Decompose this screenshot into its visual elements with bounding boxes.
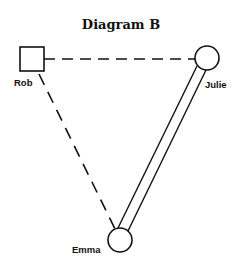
node-julie-label: Julie xyxy=(205,79,227,90)
node-emma-circle xyxy=(108,228,132,252)
node-julie-circle xyxy=(195,46,219,70)
edge-julie-emma-line-1 xyxy=(118,66,197,228)
node-rob-square xyxy=(20,47,44,71)
node-emma-label: Emma xyxy=(72,244,101,255)
diagram-title: Diagram B xyxy=(82,17,160,32)
edge-rob-emma xyxy=(39,74,115,229)
edge-julie-emma-line-2 xyxy=(128,70,206,231)
node-rob-label: Rob xyxy=(14,77,33,88)
diagram-canvas: Diagram B Rob Julie Emma xyxy=(0,0,241,270)
